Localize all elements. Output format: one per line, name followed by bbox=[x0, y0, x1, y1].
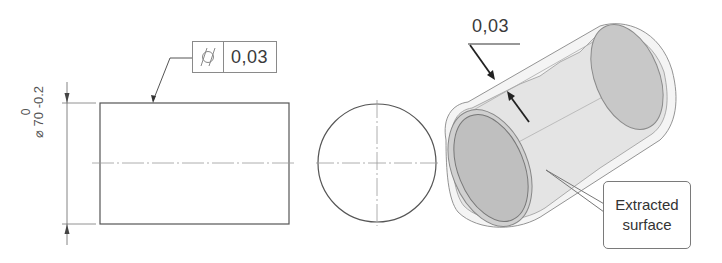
iso-tolerance-value: 0,03 bbox=[472, 16, 509, 37]
front-view bbox=[62, 58, 296, 245]
feature-control-frame: 0,03 bbox=[192, 41, 277, 73]
leader-arrow-icon bbox=[151, 95, 156, 103]
callout-line-1: Extracted bbox=[615, 195, 678, 215]
dimension-arrow-top-icon bbox=[65, 93, 70, 103]
diameter-dimension-label: 0 ⌀ 70 -0.2 bbox=[20, 62, 45, 162]
cylinder-front-rectangle bbox=[100, 103, 289, 224]
fcf-leader-line bbox=[153, 58, 192, 101]
dimension-main: ⌀ 70 -0.2 bbox=[32, 86, 45, 138]
fcf-tolerance-value: 0,03 bbox=[224, 42, 276, 72]
dimension-arrow-bottom-icon bbox=[65, 224, 70, 234]
cylindricity-icon bbox=[193, 42, 224, 72]
dimension-nominal: 70 bbox=[31, 112, 46, 126]
extracted-surface-callout: Extracted surface bbox=[603, 181, 691, 249]
diameter-symbol: ⌀ bbox=[31, 130, 46, 138]
callout-line-2: surface bbox=[622, 215, 671, 235]
tolerance-arrow-outer bbox=[470, 45, 492, 76]
side-view bbox=[316, 100, 438, 226]
dimension-lower-deviation: -0.2 bbox=[31, 86, 46, 108]
